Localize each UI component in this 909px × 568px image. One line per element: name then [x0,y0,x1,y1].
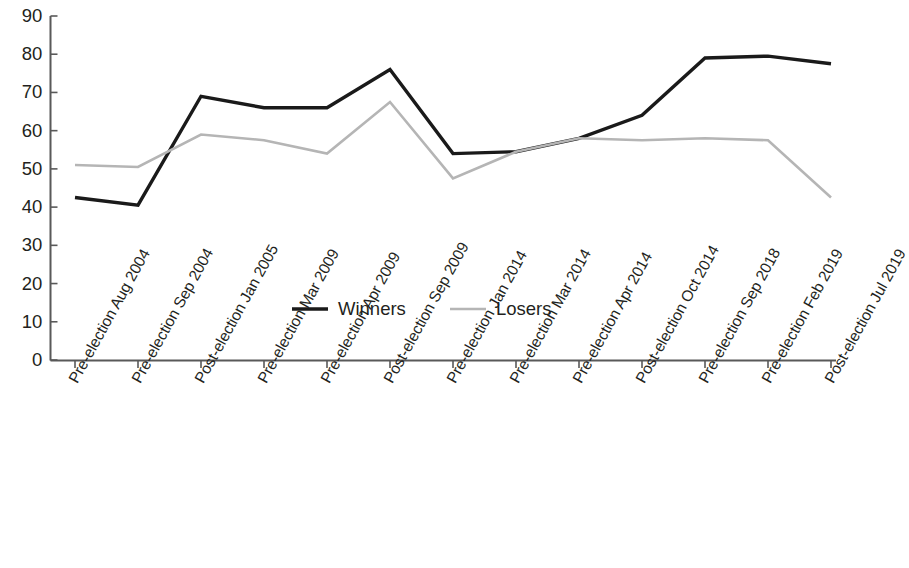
data-series-group [75,56,831,205]
legend-label-losers: Losers [496,300,552,319]
y-axis-tick-label: 70 [2,83,42,102]
y-axis-tick-label: 30 [2,236,42,255]
y-axis-ticks [51,16,58,360]
y-axis-tick-label: 80 [2,45,42,64]
y-axis-tick-label: 40 [2,198,42,217]
series-line-winners [75,56,831,205]
legend-label-winners: Winners [338,300,406,319]
y-axis-tick-label: 0 [2,351,42,370]
y-axis-tick-label: 20 [2,275,42,294]
y-axis-tick-label: 90 [2,7,42,26]
y-axis-tick-label: 50 [2,160,42,179]
y-axis-tick-label: 60 [2,122,42,141]
y-axis-tick-label: 10 [2,313,42,332]
